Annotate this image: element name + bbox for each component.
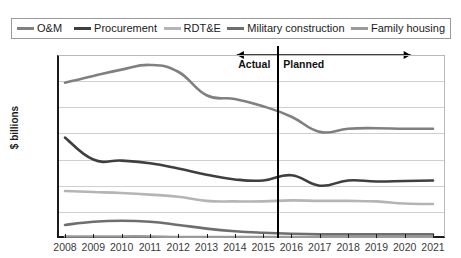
series-line [65, 236, 433, 237]
legend-swatch-family-housing [351, 27, 368, 30]
x-tick-mark [235, 234, 236, 238]
legend-label-procurement: Procurement [94, 23, 157, 34]
legend-swatch-rdte [164, 27, 181, 30]
chart-page: O&M Procurement RDT&E Military construct… [0, 0, 461, 258]
x-tick-label: 2010 [110, 241, 133, 253]
x-tick-label: 2021 [421, 241, 444, 253]
x-tick-label: 2008 [53, 241, 76, 253]
legend-label-o-and-m: O&M [37, 23, 62, 34]
x-tick-mark [178, 234, 179, 238]
legend-swatch-military-construction [227, 27, 244, 30]
x-tick-label: 2011 [139, 241, 162, 253]
phase-label-planned: Planned [283, 58, 324, 70]
x-tick-mark [122, 234, 123, 238]
legend-label-rdte: RDT&E [184, 23, 221, 34]
x-tick-mark [65, 234, 66, 238]
legend-item-o-and-m[interactable]: O&M [17, 23, 62, 34]
series-line [65, 191, 433, 204]
x-tick-label: 2012 [167, 241, 190, 253]
x-tick-label: 2014 [223, 241, 246, 253]
actual-planned-divider [277, 46, 279, 238]
series-line [65, 65, 433, 133]
legend-swatch-procurement [74, 27, 91, 30]
x-tick-label: 2020 [393, 241, 416, 253]
x-tick-mark [150, 234, 151, 238]
x-tick-mark [405, 234, 406, 238]
x-tick-label: 2019 [365, 241, 388, 253]
x-tick-label: 2018 [336, 241, 359, 253]
phase-label-actual: Actual [57, 58, 270, 70]
legend-swatch-o-and-m [17, 27, 34, 30]
series-line [65, 221, 433, 235]
chart-lines [57, 55, 445, 238]
x-tick-mark [320, 234, 321, 238]
x-tick-label: 2016 [280, 241, 303, 253]
series-line [65, 138, 433, 186]
x-tick-mark [348, 234, 349, 238]
x-tick-label: 2013 [195, 241, 218, 253]
x-tick-mark [207, 234, 208, 238]
legend-item-rdte[interactable]: RDT&E [164, 23, 221, 34]
legend-item-military-construction[interactable]: Military construction [227, 23, 344, 34]
x-tick-mark [433, 234, 434, 238]
y-axis-title: $ billions [9, 93, 20, 163]
legend-label-family-housing: Family housing [371, 23, 445, 34]
x-tick-mark [376, 234, 377, 238]
chart-legend: O&M Procurement RDT&E Military construct… [11, 18, 451, 39]
x-tick-mark [93, 234, 94, 238]
x-tick-label: 2017 [308, 241, 331, 253]
legend-label-military-construction: Military construction [247, 23, 344, 34]
legend-item-family-housing[interactable]: Family housing [351, 23, 445, 34]
x-tick-mark [263, 234, 264, 238]
x-tick-mark [291, 234, 292, 238]
legend-item-procurement[interactable]: Procurement [74, 23, 157, 34]
x-tick-label: 2009 [82, 241, 105, 253]
x-tick-label: 2015 [251, 241, 274, 253]
plot-area: 050100150200250300350 200820092010201120… [57, 55, 445, 238]
